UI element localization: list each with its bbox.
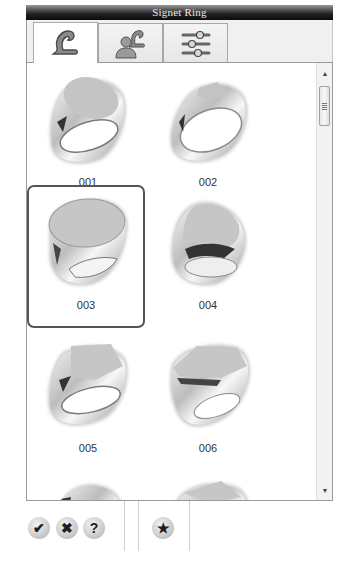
ring-item-008[interactable] <box>149 465 267 501</box>
footer-divider <box>189 501 190 551</box>
close-icon: ✖ <box>61 521 73 535</box>
ring-gallery[interactable]: 001 002 <box>26 62 333 501</box>
grip-line <box>322 107 327 108</box>
ring-label: 004 <box>151 299 265 311</box>
ring-item-005[interactable]: 005 <box>29 328 147 471</box>
favorite-button[interactable]: ★ <box>152 517 174 539</box>
tab-user-shape[interactable] <box>98 23 163 63</box>
ring-item-004[interactable]: 004 <box>149 185 267 328</box>
cancel-button[interactable]: ✖ <box>56 517 78 539</box>
ring-item-003[interactable]: 003 <box>27 185 145 328</box>
ring-thumbnail-icon <box>39 193 135 293</box>
tab-settings[interactable] <box>163 23 228 63</box>
ring-thumbnail-icon <box>41 70 137 170</box>
grip-line <box>322 103 327 104</box>
ring-thumbnail-icon <box>161 473 257 501</box>
ring-label: 005 <box>31 442 145 454</box>
ring-label: 006 <box>151 442 265 454</box>
signet-ring-panel: Signet Ring <box>0 0 361 561</box>
ring-thumbnail-icon <box>161 193 257 293</box>
user-curve-icon <box>113 28 149 60</box>
ring-item-001[interactable]: 001 <box>29 62 147 205</box>
footer-toolbar: ✔ ✖ ? ★ <box>26 501 333 553</box>
ring-item-002[interactable]: 002 <box>149 62 267 205</box>
ring-label: 003 <box>29 299 143 311</box>
scroll-up-arrow-icon[interactable]: ▲ <box>317 65 333 81</box>
star-icon: ★ <box>157 521 170 535</box>
help-icon: ? <box>90 521 99 535</box>
scroll-thumb[interactable] <box>319 86 330 126</box>
ring-grid: 001 002 <box>27 63 315 500</box>
ring-thumbnail-icon <box>161 336 257 436</box>
ring-item-007[interactable] <box>29 465 147 501</box>
tab-strip <box>26 20 333 63</box>
vertical-scrollbar[interactable]: ▲ ▼ <box>316 63 332 500</box>
sliders-icon <box>178 28 214 60</box>
footer-divider <box>138 501 139 551</box>
ring-item-006[interactable]: 006 <box>149 328 267 471</box>
ok-button[interactable]: ✔ <box>28 517 50 539</box>
grip-line <box>322 105 327 106</box>
footer-divider <box>124 501 125 551</box>
grip-line <box>322 109 327 110</box>
help-button[interactable]: ? <box>83 517 105 539</box>
ring-thumbnail-icon <box>41 336 137 436</box>
curve-shape-icon <box>48 27 84 59</box>
ring-thumbnail-icon <box>41 473 137 501</box>
ring-thumbnail-icon <box>161 70 257 170</box>
check-icon: ✔ <box>33 521 45 535</box>
tab-shape[interactable] <box>33 22 98 63</box>
scroll-down-arrow-icon[interactable]: ▼ <box>317 482 333 498</box>
panel-title: Signet Ring <box>26 5 333 20</box>
